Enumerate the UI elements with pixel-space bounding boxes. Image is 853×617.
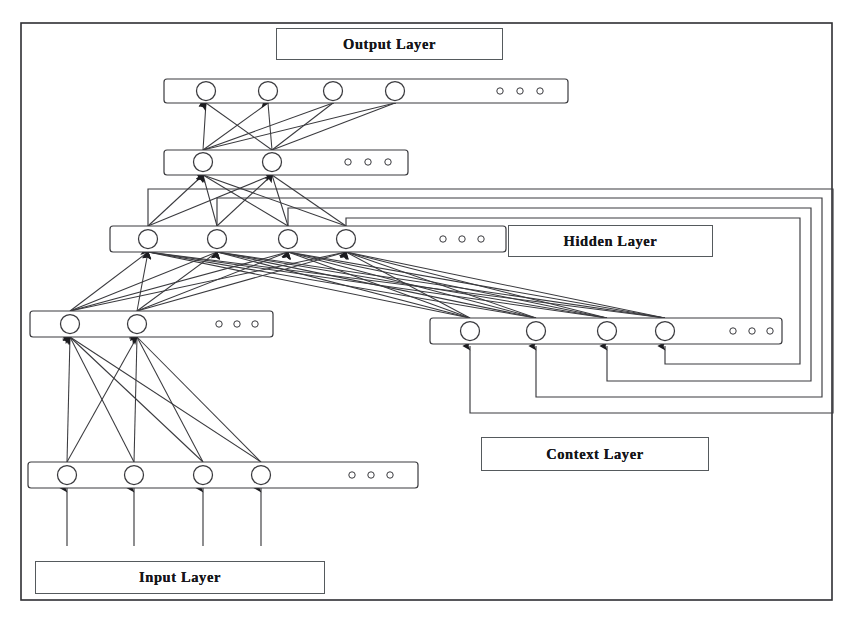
output-lower-to-output-top-edge bbox=[272, 103, 333, 150]
hidden-layer-label: Hidden Layer bbox=[508, 225, 713, 257]
neuron-node bbox=[527, 322, 546, 341]
ellipsis-dot-icon bbox=[478, 236, 484, 242]
input-layer-label: Input Layer bbox=[35, 561, 325, 594]
ellipsis-dot-icon bbox=[440, 236, 446, 242]
ellipsis-dot-icon bbox=[365, 159, 371, 165]
ellipsis-dot-icon bbox=[216, 321, 222, 327]
ellipsis-dot-icon bbox=[767, 328, 773, 334]
ellipsis-dot-icon bbox=[368, 472, 374, 478]
neural-network-diagram: Output Layer Hidden Layer Context Layer … bbox=[0, 0, 853, 617]
ellipsis-dot-icon bbox=[749, 328, 755, 334]
neuron-node bbox=[252, 466, 271, 485]
neuron-node bbox=[194, 466, 213, 485]
neuron-node bbox=[598, 322, 617, 341]
context-to-hidden-edge bbox=[217, 252, 665, 318]
hidden-to-output-lower-edge bbox=[148, 175, 203, 226]
input-to-hidden-lower-edge bbox=[70, 337, 134, 462]
ellipsis-dot-icon bbox=[459, 236, 465, 242]
hidden-to-output-lower-edge bbox=[272, 175, 346, 226]
input-layer-row-bar bbox=[28, 462, 418, 488]
ellipsis-dot-icon bbox=[730, 328, 736, 334]
neuron-node bbox=[139, 230, 158, 249]
context-to-hidden-edge bbox=[346, 252, 665, 318]
context-layer-row bbox=[430, 318, 782, 344]
neuron-node bbox=[279, 230, 298, 249]
output-lower-to-output-top-edge bbox=[203, 103, 395, 150]
ellipsis-dot-icon bbox=[349, 472, 355, 478]
neuron-node bbox=[337, 230, 356, 249]
neuron-node bbox=[208, 230, 227, 249]
neuron-node bbox=[128, 315, 147, 334]
output-lower-to-output-top-edge bbox=[203, 103, 268, 150]
output-lower-to-output-top-edge bbox=[206, 103, 272, 150]
output-layer-top-row bbox=[164, 79, 568, 103]
hidden-lower-to-hidden-edge bbox=[137, 252, 346, 311]
context-to-hidden-edge bbox=[288, 252, 607, 318]
ellipsis-dot-icon bbox=[385, 159, 391, 165]
input-to-hidden-lower-edge bbox=[70, 337, 261, 462]
output-layer-lower-row bbox=[164, 150, 408, 175]
hidden-lower-to-hidden-edge bbox=[137, 252, 148, 311]
ellipsis-dot-icon bbox=[537, 88, 543, 94]
input-to-hidden-lower-edge bbox=[67, 337, 70, 462]
neuron-node bbox=[194, 153, 213, 172]
network-svg-canvas bbox=[0, 0, 853, 617]
output-lower-to-output-top-edge bbox=[272, 103, 395, 150]
ellipsis-dot-icon bbox=[517, 88, 523, 94]
output-layer-top-row-bar bbox=[164, 79, 568, 103]
ellipsis-dot-icon bbox=[234, 321, 240, 327]
hidden-layer-row bbox=[110, 226, 506, 252]
neuron-node bbox=[386, 82, 405, 101]
neuron-node bbox=[58, 466, 77, 485]
hidden-layer-left-lower-row bbox=[30, 311, 273, 337]
input-to-hidden-lower-edge bbox=[137, 337, 203, 462]
neuron-node bbox=[656, 322, 675, 341]
hidden-lower-to-hidden-edge bbox=[70, 252, 288, 311]
ellipsis-dot-icon bbox=[387, 472, 393, 478]
context-layer-label: Context Layer bbox=[481, 437, 709, 471]
ellipsis-dot-icon bbox=[497, 88, 503, 94]
output-lower-to-output-top-edge bbox=[203, 103, 333, 150]
ellipsis-dot-icon bbox=[345, 159, 351, 165]
context-to-hidden-edge bbox=[148, 252, 607, 318]
ellipsis-dot-icon bbox=[252, 321, 258, 327]
output-lower-to-output-top-edge bbox=[203, 103, 206, 150]
neuron-node bbox=[259, 82, 278, 101]
neuron-node bbox=[461, 322, 480, 341]
input-layer-row bbox=[28, 462, 418, 488]
neuron-node bbox=[263, 153, 282, 172]
hidden-lower-to-hidden-edge bbox=[70, 252, 217, 311]
neuron-node bbox=[61, 315, 80, 334]
output-layer-label: Output Layer bbox=[276, 28, 503, 60]
neuron-node bbox=[197, 82, 216, 101]
hidden-lower-to-hidden-edge bbox=[137, 252, 217, 311]
neuron-node bbox=[125, 466, 144, 485]
external-input-arrows bbox=[67, 488, 261, 546]
context-to-hidden-edge bbox=[217, 252, 607, 318]
input-to-hidden-lower-edge bbox=[137, 337, 261, 462]
neuron-node bbox=[324, 82, 343, 101]
context-to-hidden-edge bbox=[148, 252, 665, 318]
